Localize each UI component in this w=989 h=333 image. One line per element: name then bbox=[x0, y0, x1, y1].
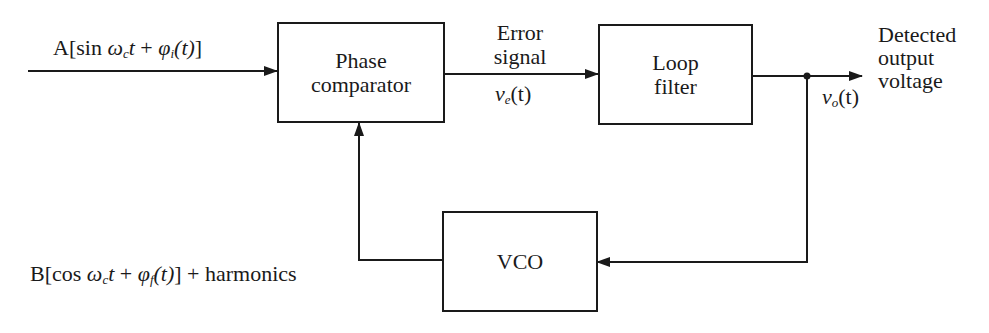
error-signal-label: Error signal bbox=[480, 21, 560, 69]
error-signal-variable: ve(t) bbox=[495, 82, 531, 112]
input-signal-label: A[sin ωct + φi(t)] bbox=[53, 36, 202, 66]
output-signal-variable: vo(t) bbox=[822, 85, 859, 115]
feedback-signal-label: B[cos ωct + φf(t)] + harmonics bbox=[30, 262, 297, 292]
loop-filter-label-line1: Loop bbox=[652, 51, 698, 75]
vco-block: VCO bbox=[442, 211, 598, 312]
loop-filter-block: Loop filter bbox=[598, 24, 753, 125]
vco-to-comparator-wire bbox=[359, 123, 442, 260]
loop-filter-label-line2: filter bbox=[654, 75, 697, 99]
phase-comparator-label-line2: comparator bbox=[311, 73, 411, 97]
phase-comparator-block: Phase comparator bbox=[277, 22, 445, 123]
detected-output-voltage-label: Detected output voltage bbox=[878, 23, 956, 92]
phase-comparator-label-line1: Phase bbox=[335, 49, 386, 73]
vco-label: VCO bbox=[497, 250, 543, 274]
